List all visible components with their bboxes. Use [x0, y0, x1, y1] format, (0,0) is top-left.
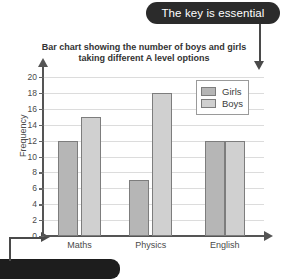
y-tick: [39, 172, 44, 173]
y-tick-label: 2: [32, 215, 37, 225]
y-tick: [39, 188, 44, 189]
bar-maths-boys: [81, 117, 101, 236]
callout-key-essential: The key is essential: [146, 2, 280, 24]
callout-top-text: The key is essential: [162, 7, 265, 19]
y-tick-label: 10: [28, 152, 37, 162]
legend-swatch-girls: [201, 87, 216, 96]
x-category-label: Physics: [135, 240, 166, 250]
y-tick-label: 14: [28, 120, 37, 130]
bar-physics-boys: [152, 93, 172, 236]
callout-bottom-partial: [0, 259, 120, 279]
y-tick: [39, 93, 44, 94]
y-tick-label: 16: [28, 104, 37, 114]
y-tick-label: 4: [32, 199, 37, 209]
bar-english-girls: [205, 141, 225, 236]
y-tick-label: 18: [28, 88, 37, 98]
gridline: [44, 77, 264, 78]
bar-physics-girls: [129, 180, 149, 236]
legend-swatch-boys: [201, 99, 216, 108]
chart-title: Bar chart showing the number of boys and…: [38, 42, 250, 64]
y-tick: [39, 157, 44, 158]
y-tick: [39, 220, 44, 221]
y-tick: [39, 141, 44, 142]
legend-item-girls: Girls: [201, 86, 243, 97]
legend-item-boys: Boys: [201, 98, 243, 109]
bar-maths-girls: [58, 141, 78, 236]
y-tick-label: 0: [32, 231, 37, 241]
x-category-label: Maths: [67, 240, 92, 250]
y-tick-label: 8: [32, 167, 37, 177]
legend-label: Boys: [222, 98, 243, 109]
y-tick-label: 20: [28, 72, 37, 82]
down-arrow-icon: [254, 61, 264, 70]
callout-bottom-leader-vertical: [9, 237, 11, 261]
y-tick: [39, 77, 44, 78]
y-tick: [39, 125, 44, 126]
x-category-label: English: [210, 240, 240, 250]
up-arrow-icon: [38, 58, 48, 67]
y-tick-label: 6: [32, 183, 37, 193]
y-tick: [39, 236, 44, 237]
y-tick: [39, 204, 44, 205]
right-arrow-icon: [264, 231, 273, 241]
callout-top-leader-line: [259, 24, 261, 64]
y-axis-title: Frequency: [18, 114, 28, 157]
callout-bottom-leader-horizontal: [9, 237, 43, 239]
bar-english-boys: [225, 141, 245, 236]
y-tick-label: 12: [28, 136, 37, 146]
y-tick: [39, 109, 44, 110]
chart-legend: GirlsBoys: [196, 80, 249, 115]
legend-label: Girls: [222, 86, 242, 97]
